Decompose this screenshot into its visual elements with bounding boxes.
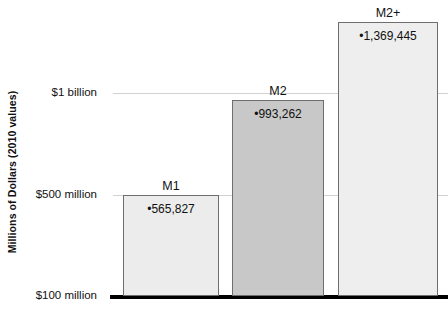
bar-m2plus[interactable]: •1,369,445 [338, 22, 438, 296]
bar-m2[interactable]: •993,262 [232, 100, 324, 296]
bar-chart: Millions of Dollars (2010 values) $1 bil… [0, 0, 448, 314]
bar-value-text-m1: 565,827 [151, 202, 194, 216]
bar-category-label-m1: M1 [123, 179, 219, 193]
bar-category-label-m2: M2 [232, 84, 324, 98]
bar-value-m1: •565,827 [124, 202, 218, 216]
bar-value-m2: •993,262 [233, 107, 323, 121]
bar-category-label-m2plus: M2+ [338, 6, 438, 20]
bar-m1[interactable]: •565,827 [123, 195, 219, 296]
bar-value-text-m2plus: 1,369,445 [363, 29, 416, 43]
plot-area: M1 •565,827 M2 •993,262 M2+ •1,369,445 [0, 0, 448, 314]
bar-value-text-m2: 993,262 [258, 107, 301, 121]
bar-value-m2plus: •1,369,445 [339, 29, 437, 43]
